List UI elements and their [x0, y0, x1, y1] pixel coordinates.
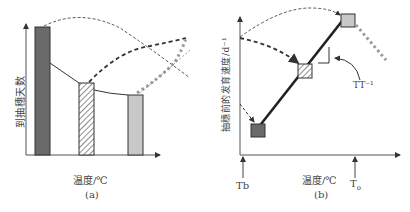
thick-dashed-curve-a	[89, 38, 186, 82]
bar-high-temperature	[128, 95, 143, 155]
bar-mid-temperature	[79, 83, 94, 155]
point-high-temperature	[341, 14, 355, 27]
thick-dashed-curve-b	[240, 38, 298, 63]
short-dashed-b	[240, 104, 254, 122]
to-label-main: T	[350, 178, 357, 189]
point-low-temperature	[251, 124, 265, 137]
caption-a: (a)	[85, 189, 99, 200]
point-mid-temperature	[298, 64, 312, 78]
to-label: To	[350, 178, 361, 192]
panel-b	[240, 8, 400, 178]
x-axis-label-b: 温度/℃	[302, 172, 337, 187]
bar-low-temperature	[35, 27, 50, 155]
thin-gray-dashed-a	[140, 50, 190, 93]
panel-a	[26, 17, 190, 155]
dashed-arch-b	[240, 8, 340, 37]
to-label-sub: o	[357, 184, 361, 192]
x-axis-label-a: 温度/℃	[73, 172, 108, 187]
y-axis-label-a: 到抽穗天数	[12, 76, 27, 129]
caption-b: (b)	[314, 189, 328, 200]
slope-pointer	[335, 58, 360, 80]
slope-label: TT⁻¹	[353, 80, 374, 90]
gray-dotted-fall-b	[356, 25, 386, 60]
tb-label: Tb	[236, 180, 249, 191]
diagram-canvas	[0, 0, 410, 212]
y-axis-label-b: 抽穗前的发育速度/d⁻¹	[219, 37, 232, 132]
